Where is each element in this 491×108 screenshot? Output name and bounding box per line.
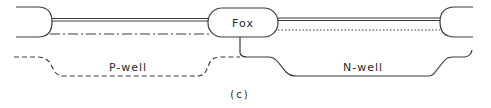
p-well-label: P-well: [109, 61, 147, 74]
n-well-label: N-well: [343, 61, 383, 74]
right-field-oxide: [440, 7, 473, 37]
fox-label: Fox: [232, 17, 254, 30]
figure-caption: (c): [230, 89, 249, 100]
cmos-cross-section-diagram: Fox P-well N-well (c): [0, 0, 491, 108]
left-field-oxide: [16, 7, 52, 37]
